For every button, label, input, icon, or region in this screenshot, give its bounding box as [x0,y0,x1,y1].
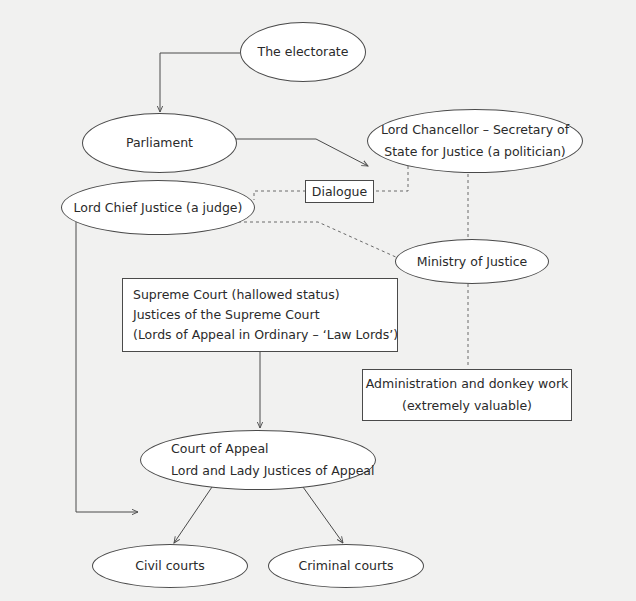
edge-appeal-criminal [303,487,343,543]
node-criminal-courts[interactable]: Criminal courts [268,544,424,588]
node-parliament[interactable]: Parliament [82,113,237,173]
node-lord-chief-justice[interactable]: Lord Chief Justice (a judge) [61,180,255,235]
node-label-line-2: (extremely valuable) [402,395,532,417]
node-dialogue[interactable]: Dialogue [305,180,374,203]
node-label-line-2: Justices of the Supreme Court [133,305,320,325]
node-label: Dialogue [312,182,367,202]
node-label: Lord Chief Justice (a judge) [74,197,243,219]
node-label-line-1: Supreme Court (hallowed status) [133,285,340,305]
edge-lcj-ministry [238,222,398,258]
edge-electorate-parliament [160,53,240,112]
node-label: The electorate [258,41,349,63]
node-supreme-court[interactable]: Supreme Court (hallowed status) Justices… [122,278,398,352]
node-court-of-appeal[interactable]: Court of Appeal Lord and Lady Justices o… [140,430,376,490]
node-lord-chancellor[interactable]: Lord Chancellor – Secretary of State for… [367,109,583,173]
edge-parliament-lord-chancellor [236,139,368,166]
node-civil-courts[interactable]: Civil courts [92,544,248,588]
node-ministry-of-justice[interactable]: Ministry of Justice [395,239,549,284]
node-label-line-2: State for Justice (a politician) [384,141,565,163]
edge-dialogue-lcj [254,191,306,200]
node-label-line-1: Administration and donkey work [366,373,569,395]
node-label: Ministry of Justice [417,251,528,273]
node-the-electorate[interactable]: The electorate [240,22,366,82]
node-label-line-1: Lord Chancellor – Secretary of [381,119,569,141]
node-label-line-1: Court of Appeal [171,438,269,460]
node-label: Criminal courts [298,555,393,577]
node-label-line-3: (Lords of Appeal in Ordinary – ‘Law Lord… [133,325,398,345]
node-label-line-2: Lord and Lady Justices of Appeal [171,460,374,482]
edge-appeal-civil [174,487,212,543]
node-label: Civil courts [135,555,205,577]
node-label: Parliament [126,132,193,154]
node-administration[interactable]: Administration and donkey work (extremel… [362,369,572,421]
edge-lc-dialogue [374,166,408,191]
edge-lcj-court-of-appeal [76,222,138,512]
